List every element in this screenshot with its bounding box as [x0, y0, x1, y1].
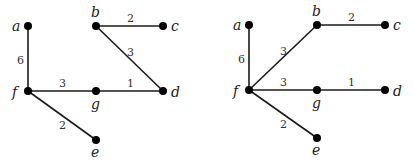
edge-weight-label: 6	[238, 53, 245, 66]
edge-weight-label: 3	[59, 77, 66, 90]
vertex-label: b	[312, 3, 321, 19]
vertex-b	[92, 22, 100, 30]
edge-f-e	[28, 91, 96, 140]
graph-diagram: 623312abcfgde 632312abcfgde	[0, 0, 413, 165]
vertex-e	[313, 134, 321, 142]
vertex-label: e	[312, 142, 320, 158]
vertex-label: c	[171, 18, 179, 34]
left-graph: 623312abcfgde	[11, 4, 180, 160]
vertex-g	[313, 86, 321, 94]
edge-weight-label: 6	[17, 54, 24, 67]
right-graph: 632312abcfgde	[232, 3, 402, 158]
edge-weight-label: 1	[348, 76, 355, 89]
vertex-label: d	[171, 84, 180, 100]
edge-weight-label: 2	[127, 12, 134, 25]
vertex-label: f	[11, 84, 20, 100]
edge-weight-label: 3	[127, 46, 134, 59]
vertex-d	[381, 86, 389, 94]
vertex-label: e	[91, 144, 99, 160]
edge-weight-label: 2	[348, 11, 355, 24]
vertex-c	[381, 21, 389, 29]
vertex-f	[245, 86, 253, 94]
vertex-label: a	[233, 17, 241, 33]
edge-weight-label: 2	[280, 118, 287, 131]
edge-weight-label: 1	[127, 77, 134, 90]
vertex-b	[313, 21, 321, 29]
vertex-c	[159, 22, 167, 30]
vertex-label: g	[91, 96, 100, 112]
vertex-e	[92, 136, 100, 144]
vertex-f	[24, 87, 32, 95]
vertex-label: d	[393, 83, 402, 99]
edge-weight-label: 3	[280, 76, 287, 89]
vertex-d	[159, 87, 167, 95]
vertex-a	[24, 22, 32, 30]
vertex-a	[245, 21, 253, 29]
vertex-label: a	[12, 18, 20, 34]
edge-weight-label: 3	[280, 45, 287, 58]
vertex-label: b	[91, 4, 100, 20]
edge-weight-label: 2	[59, 119, 66, 132]
vertex-g	[92, 87, 100, 95]
vertex-label: c	[393, 17, 401, 33]
vertex-label: g	[312, 95, 321, 111]
vertex-label: f	[232, 83, 241, 99]
